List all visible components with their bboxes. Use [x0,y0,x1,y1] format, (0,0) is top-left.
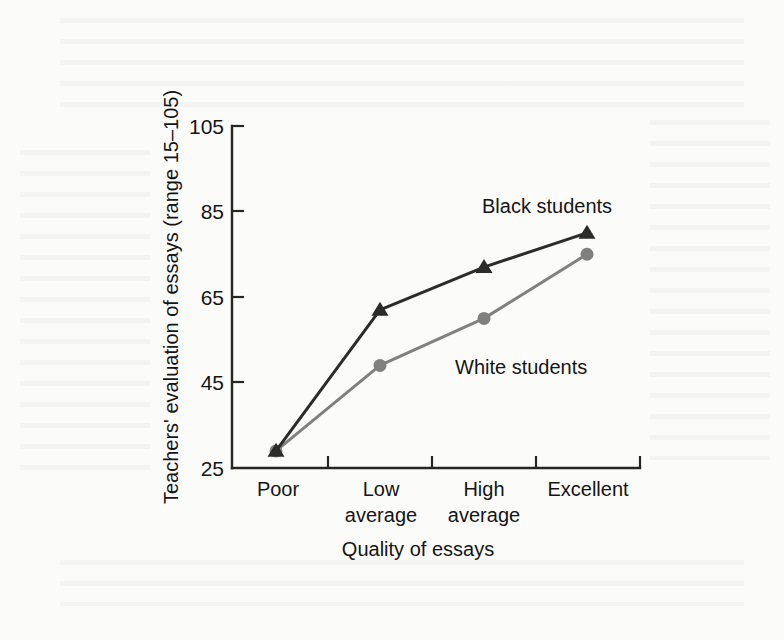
data-point-white-students-low-average [374,359,387,372]
data-point-white-students-excellent [581,248,594,261]
data-point-black-students-excellent [579,225,596,239]
data-point-white-students-high-average [478,312,491,325]
x-category-label-high-line1: High [463,478,504,500]
x-category-label-low-line2: average [345,504,417,526]
y-tick-labels: 105 85 65 45 25 [189,115,224,480]
axis-group [232,126,640,468]
y-tick-label-85: 85 [201,200,224,223]
x-category-label-excellent: Excellent [547,478,629,500]
series-white-students-line [276,254,587,451]
y-tick-label-45: 45 [201,371,224,394]
x-category-label-poor: Poor [257,478,300,500]
series-white-students [270,248,594,458]
x-category-labels: Poor Low average High average Excellent [257,478,629,526]
x-axis-title: Quality of essays [342,538,494,560]
x-category-label-high-line2: average [448,504,520,526]
x-category-label-low-line1: Low [363,478,400,500]
y-tick-label-65: 65 [201,286,224,309]
y-axis-title: Teachers' evaluation of essays (range 15… [160,90,182,504]
y-tick-label-105: 105 [189,115,224,138]
chart-canvas: 105 85 65 45 25 Poor Low average High av… [0,0,784,640]
line-chart: 105 85 65 45 25 Poor Low average High av… [0,0,784,640]
x-tick-marks [328,456,536,468]
series-annotation-white-students: White students [455,356,587,378]
y-tick-marks [232,211,244,382]
y-tick-label-25: 25 [201,457,224,480]
series-annotation-black-students: Black students [482,195,612,217]
